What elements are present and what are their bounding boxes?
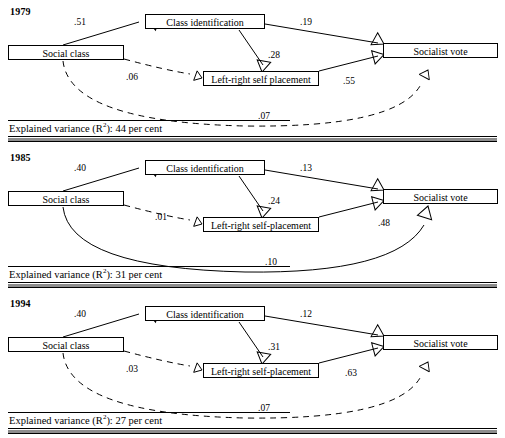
coef-social-to-classid: .40 — [74, 163, 86, 173]
edge-classid-to-vote — [265, 170, 378, 189]
coef-classid-to-leftright: .28 — [268, 50, 280, 60]
coef-classid-to-vote: .13 — [300, 163, 312, 173]
node-class-identification: Class identification — [145, 14, 265, 29]
edge-classid-to-vote — [265, 316, 378, 335]
edge-leftright-to-vote — [319, 202, 378, 217]
edge-classid-to-leftright — [239, 30, 263, 65]
thin-arrowhead-vote-in-bottom — [419, 359, 433, 371]
coef-social-to-classid: .51 — [74, 17, 86, 27]
node-social-class: Social class — [8, 191, 124, 206]
edge-classid-to-vote — [265, 24, 378, 43]
variance-superscript: 2 — [103, 413, 107, 421]
panel-divider-thick — [8, 138, 497, 142]
node-social-class: Social class — [8, 45, 124, 60]
node-socialist-vote: Socialist vote — [383, 335, 498, 350]
panel-1985: 1985Social classClass identificationLeft… — [0, 146, 505, 292]
node-socialist-vote: Socialist vote — [383, 189, 498, 204]
node-socialist-vote: Socialist vote — [383, 43, 498, 58]
variance-superscript: 2 — [103, 121, 107, 129]
edge-leftright-to-vote — [319, 348, 378, 363]
node-left-right-placement: Left-right self placement — [203, 71, 319, 86]
edge-classid-to-leftright — [239, 322, 263, 357]
node-class-identification: Class identification — [145, 160, 265, 175]
arrowhead-vote-in-bottom-curve — [417, 204, 435, 220]
coef-social-to-leftright: .03 — [126, 364, 138, 374]
panel-year-label: 1994 — [10, 298, 31, 309]
node-left-right-placement: Left-right self-placement — [203, 363, 319, 378]
variance-superscript: 2 — [103, 267, 107, 275]
panel-year-label: 1985 — [10, 152, 31, 163]
coef-classid-to-leftright: .24 — [268, 196, 280, 206]
explained-variance-text: Explained variance (R2): 31 per cent — [9, 267, 162, 280]
coef-social-to-leftright: .01 — [155, 212, 167, 222]
node-left-right-placement: Left-right self-placement — [203, 217, 319, 232]
panel-divider-thin — [8, 282, 497, 283]
coef-social-to-classid: .40 — [74, 309, 86, 319]
edge-classid-to-leftright — [239, 176, 263, 211]
coef-classid-to-vote: .12 — [300, 309, 312, 319]
explained-variance-text: Explained variance (R2): 27 per cent — [9, 413, 162, 426]
panel-divider-thin — [8, 428, 497, 429]
node-social-class: Social class — [8, 337, 124, 352]
panel-divider-thick — [8, 284, 497, 288]
explained-variance-text: Explained variance (R2): 44 per cent — [9, 121, 162, 134]
coef-leftright-to-vote: .55 — [343, 76, 355, 86]
coef-classid-to-leftright: .31 — [268, 342, 280, 352]
panel-1994: 1994Social classClass identificationLeft… — [0, 292, 505, 438]
thin-arrowhead-vote-in-bottom — [419, 67, 433, 79]
coef-leftright-to-vote: .63 — [345, 368, 357, 378]
coef-leftright-to-vote: .48 — [378, 218, 390, 228]
panel-1979: 1979Social classClass identificationLeft… — [0, 0, 505, 146]
edge-leftright-to-vote — [319, 56, 378, 71]
panel-divider-thick — [8, 430, 497, 434]
coef-social-to-leftright: .06 — [126, 72, 138, 82]
coef-classid-to-vote: .19 — [300, 17, 312, 27]
node-class-identification: Class identification — [145, 306, 265, 321]
panel-year-label: 1979 — [10, 6, 31, 17]
panel-divider-thin — [8, 136, 497, 137]
